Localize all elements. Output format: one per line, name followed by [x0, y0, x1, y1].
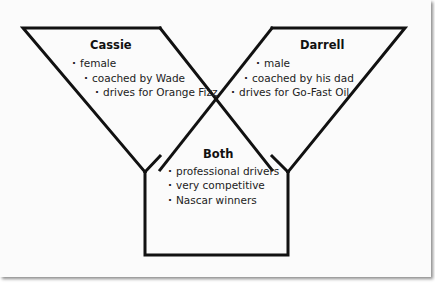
right-item: drives for Go-Fast Oil [231, 85, 349, 99]
left-item: female [72, 56, 116, 70]
bullet-icon [168, 194, 176, 206]
both-item: very competitive [168, 178, 265, 192]
right-item: coached by his dad [244, 71, 354, 85]
both-item: professional drivers [168, 164, 279, 178]
right-title: Darrell [300, 38, 344, 52]
right-item: male [256, 56, 290, 70]
bullet-icon [168, 165, 176, 177]
both-title: Both [203, 147, 233, 161]
bullet-icon [244, 72, 252, 84]
both-item: Nascar winners [168, 193, 257, 207]
diagram-page: Cassie female coached by Wade drives for… [0, 0, 431, 277]
bullet-icon [95, 86, 103, 98]
left-item: coached by Wade [84, 71, 185, 85]
bullet-icon [256, 57, 264, 69]
left-title: Cassie [90, 38, 132, 52]
bullet-icon [168, 179, 176, 191]
bullet-icon [84, 72, 92, 84]
left-item: drives for Orange Fizz [95, 85, 218, 99]
bullet-icon [231, 86, 239, 98]
bullet-icon [72, 57, 80, 69]
y-chart-outline [0, 0, 435, 284]
